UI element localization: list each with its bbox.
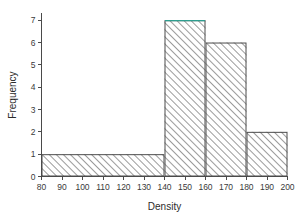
x-axis-title: Density — [148, 201, 181, 212]
bar-fill — [206, 43, 247, 177]
y-tick-label: 2 — [31, 127, 36, 137]
x-tick-label: 130 — [137, 182, 151, 192]
x-tick-label: 200 — [280, 182, 294, 192]
x-tick-label: 170 — [219, 182, 233, 192]
x-tick-label: 190 — [260, 182, 274, 192]
y-tick-label: 1 — [31, 149, 36, 159]
x-tick-label: 120 — [116, 182, 130, 192]
x-tick-label: 90 — [57, 182, 67, 192]
bar-fill — [165, 20, 206, 176]
axis-labels-layer: 0123456780901001101201301401501601701801… — [7, 15, 295, 212]
x-tick-label: 140 — [157, 182, 171, 192]
histogram-bar — [42, 154, 165, 176]
x-tick-label: 80 — [37, 182, 47, 192]
y-tick-label: 7 — [31, 15, 36, 25]
histogram-bar — [165, 20, 206, 176]
y-tick-label: 3 — [31, 105, 36, 115]
histogram-figure: 0123456780901001101201301401501601701801… — [0, 0, 305, 221]
chart-canvas: 0123456780901001101201301401501601701801… — [0, 0, 305, 221]
y-tick-label: 0 — [31, 172, 36, 182]
y-tick-label: 5 — [31, 60, 36, 70]
y-axis-title: Frequency — [7, 71, 18, 118]
y-tick-label: 4 — [31, 82, 36, 92]
x-tick-label: 150 — [178, 182, 192, 192]
y-tick-label: 6 — [31, 38, 36, 48]
bar-fill — [247, 132, 288, 177]
bar-fill — [42, 154, 165, 176]
histogram-bar — [206, 43, 247, 177]
x-tick-label: 180 — [239, 182, 253, 192]
x-tick-label: 100 — [75, 182, 89, 192]
bars-layer — [42, 20, 288, 176]
x-tick-label: 160 — [198, 182, 212, 192]
histogram-bar — [247, 132, 288, 177]
x-tick-label: 110 — [96, 182, 110, 192]
